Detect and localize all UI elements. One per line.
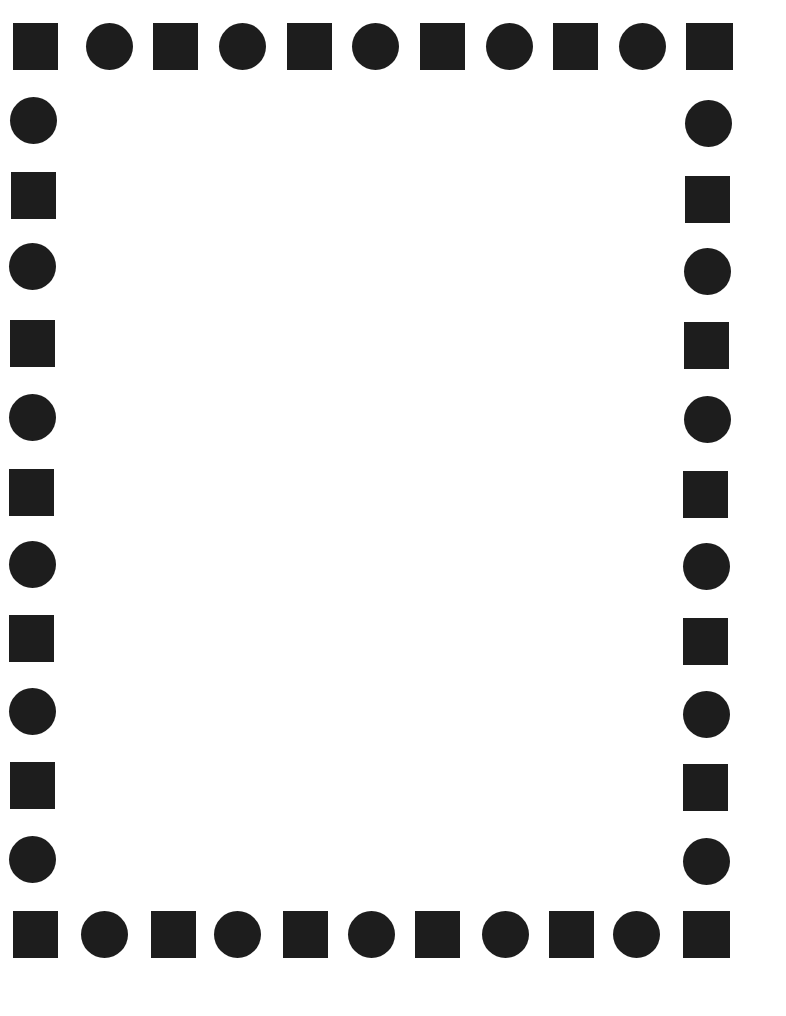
border-square-bottom-row-6 bbox=[415, 911, 460, 958]
border-square-left-column-10 bbox=[10, 762, 55, 809]
border-circle-right-column-9 bbox=[683, 691, 730, 738]
border-circle-right-column-11 bbox=[683, 838, 730, 885]
border-circle-bottom-row-9 bbox=[613, 911, 660, 958]
border-square-top-row-4 bbox=[287, 23, 332, 70]
border-circle-right-column-7 bbox=[683, 543, 730, 590]
border-square-left-column-2 bbox=[11, 172, 56, 219]
border-circle-bottom-row-1 bbox=[81, 911, 128, 958]
border-circle-left-column-11 bbox=[9, 836, 56, 883]
border-square-bottom-row-4 bbox=[283, 911, 328, 958]
border-square-bottom-row-10 bbox=[683, 911, 730, 958]
border-circle-right-column-3 bbox=[684, 248, 731, 295]
border-circle-bottom-row-3 bbox=[214, 911, 261, 958]
border-circle-left-column-3 bbox=[9, 243, 56, 290]
border-circle-top-row-3 bbox=[219, 23, 266, 70]
border-square-top-row-10 bbox=[686, 23, 733, 70]
border-square-right-column-2 bbox=[685, 176, 730, 223]
border-square-top-row-0 bbox=[13, 23, 58, 70]
border-circle-bottom-row-7 bbox=[482, 911, 529, 958]
border-square-right-column-8 bbox=[683, 618, 728, 665]
border-circle-top-row-9 bbox=[619, 23, 666, 70]
border-square-right-column-10 bbox=[683, 764, 728, 811]
border-circle-top-row-1 bbox=[86, 23, 133, 70]
border-circle-left-column-1 bbox=[10, 97, 57, 144]
border-circle-right-column-5 bbox=[684, 396, 731, 443]
border-square-top-row-6 bbox=[420, 23, 465, 70]
border-square-top-row-8 bbox=[553, 23, 598, 70]
border-circle-top-row-5 bbox=[352, 23, 399, 70]
border-square-left-column-6 bbox=[9, 469, 54, 516]
border-square-bottom-row-0 bbox=[13, 911, 58, 958]
border-circle-top-row-7 bbox=[486, 23, 533, 70]
border-square-left-column-4 bbox=[10, 320, 55, 367]
border-square-right-column-6 bbox=[683, 471, 728, 518]
border-square-bottom-row-2 bbox=[151, 911, 196, 958]
border-square-left-column-8 bbox=[9, 615, 54, 662]
border-square-top-row-2 bbox=[153, 23, 198, 70]
border-square-bottom-row-8 bbox=[549, 911, 594, 958]
border-square-right-column-4 bbox=[684, 322, 729, 369]
border-circle-left-column-7 bbox=[9, 541, 56, 588]
page-canvas bbox=[0, 0, 786, 1016]
border-circle-left-column-5 bbox=[9, 394, 56, 441]
page-content-area bbox=[70, 80, 680, 905]
border-circle-right-column-1 bbox=[685, 100, 732, 147]
border-circle-bottom-row-5 bbox=[348, 911, 395, 958]
border-circle-left-column-9 bbox=[9, 688, 56, 735]
